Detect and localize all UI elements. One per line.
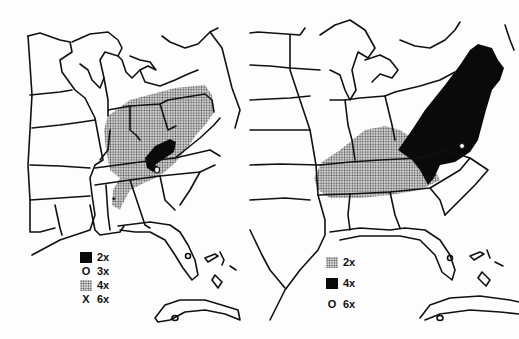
legend-swatch-stipple <box>80 280 92 291</box>
legend-circle-icon: O <box>80 265 92 277</box>
legend-swatch-black <box>80 252 92 263</box>
legend-label: 2x <box>97 251 109 263</box>
legend-swatch-black <box>326 278 338 289</box>
left-marker-6x: * <box>112 195 116 205</box>
left-legend-item-1: 2x <box>80 250 109 264</box>
right-legend-item-1: 2x <box>326 255 355 269</box>
legend-label: 2x <box>343 256 355 268</box>
right-map <box>250 20 519 321</box>
right-marker-6x <box>460 144 465 149</box>
right-legend-item-3: O 6x <box>326 297 355 311</box>
left-marker-3x <box>155 167 160 173</box>
right-legend-item-2: 4x <box>326 276 355 290</box>
figure: * <box>0 0 519 339</box>
left-legend-item-3: 4x <box>80 278 109 292</box>
left-map: * <box>28 28 240 322</box>
legend-label: 6x <box>343 298 355 310</box>
legend-label: 4x <box>343 277 355 289</box>
left-legend-item-4: X 6x <box>80 292 109 306</box>
legend-x-icon: X <box>80 293 92 305</box>
legend-circle-icon: O <box>326 298 338 310</box>
legend-swatch-stipple <box>326 257 338 268</box>
legend-label: 3x <box>97 265 109 277</box>
maps-svg: * <box>0 0 519 339</box>
legend-label: 4x <box>97 279 109 291</box>
legend-label: 6x <box>97 293 109 305</box>
left-legend-item-2: O 3x <box>80 264 109 278</box>
